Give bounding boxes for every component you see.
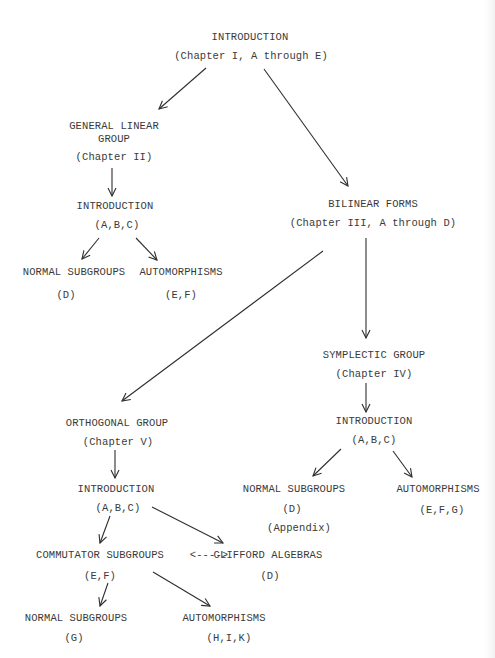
node-sp-intro-title: INTRODUCTION bbox=[336, 415, 413, 427]
node-bilinear-sub: (Chapter III, A through D) bbox=[290, 217, 456, 229]
node-root-title: INTRODUCTION bbox=[212, 31, 289, 43]
node-o-clifford-sub: (D) bbox=[260, 570, 279, 582]
node-sp-auto-title: AUTOMORPHISMS bbox=[396, 483, 479, 495]
node-gl-title-line2: GROUP bbox=[98, 133, 130, 145]
arrow-gl-intro-to-auto bbox=[136, 238, 157, 260]
diagram-page: INTRODUCTION (Chapter I, A through E) GE… bbox=[0, 0, 495, 658]
node-orthogonal-title: ORTHOGONAL GROUP bbox=[66, 417, 168, 429]
node-o-normal-title: NORMAL SUBGROUPS bbox=[25, 612, 127, 624]
node-sp-normal-appendix: (Appendix) bbox=[267, 522, 331, 534]
node-gl-normal-title: NORMAL SUBGROUPS bbox=[23, 266, 125, 278]
arrow-o-intro-to-clifford bbox=[152, 507, 223, 543]
node-gl-title-line1: GENERAL LINEAR bbox=[69, 120, 159, 132]
node-gl-auto-sub: (E,F) bbox=[165, 289, 197, 301]
node-symplectic-sub: (Chapter IV) bbox=[336, 368, 413, 380]
arrow-root-to-gl bbox=[159, 68, 206, 109]
node-gl-intro-title: INTRODUCTION bbox=[77, 200, 154, 212]
node-gl-sub: (Chapter II) bbox=[76, 151, 153, 163]
node-o-normal-sub: (G) bbox=[64, 632, 83, 644]
node-sp-intro-sub: (A,B,C) bbox=[352, 434, 397, 446]
node-bilinear-title: BILINEAR FORMS bbox=[328, 198, 418, 210]
node-sp-auto-sub: (E,F,G) bbox=[420, 504, 465, 516]
arrow-sp-intro-to-auto bbox=[393, 451, 412, 477]
node-sp-normal-sub: (D) bbox=[282, 503, 301, 515]
node-symplectic-title: SYMPLECTIC GROUP bbox=[323, 349, 425, 361]
node-sp-normal-title: NORMAL SUBGROUPS bbox=[243, 483, 345, 495]
arrow-sp-intro-to-normal bbox=[313, 449, 341, 476]
arrow-commutator-to-auto bbox=[153, 572, 210, 606]
arrow-root-to-bilinear bbox=[264, 69, 348, 186]
node-o-auto-title: AUTOMORPHISMS bbox=[182, 612, 265, 624]
arrow-gl-intro-to-normal bbox=[82, 238, 99, 259]
arrow-commutator-to-normal bbox=[100, 583, 108, 606]
node-root-sub: (Chapter I, A through E) bbox=[174, 50, 328, 62]
node-o-intro-title: INTRODUCTION bbox=[78, 483, 155, 495]
node-o-commutator-title: COMMUTATOR SUBGROUPS bbox=[36, 549, 164, 561]
node-o-auto-sub: (H,I,K) bbox=[207, 632, 252, 644]
node-orthogonal-sub: (Chapter V) bbox=[83, 436, 153, 448]
node-o-clifford-title: CLIFFORD ALGEBRAS bbox=[214, 549, 323, 561]
node-gl-intro-sub: (A,B,C) bbox=[95, 219, 140, 231]
node-o-intro-sub: (A,B,C) bbox=[96, 502, 141, 514]
arrow-o-intro-to-commutator bbox=[100, 516, 110, 543]
node-o-commutator-sub: (E,F) bbox=[84, 570, 116, 582]
node-gl-auto-title: AUTOMORPHISMS bbox=[139, 266, 222, 278]
node-gl-normal-sub: (D) bbox=[56, 289, 75, 301]
